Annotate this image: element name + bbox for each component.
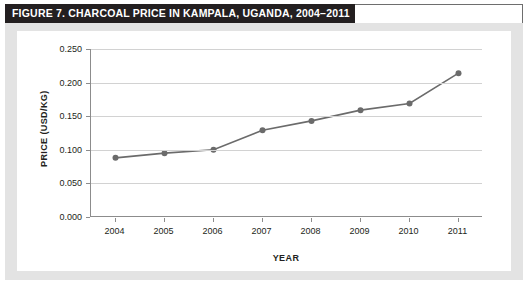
y-tick-mark [86, 83, 90, 84]
x-tick-mark [409, 218, 410, 222]
figure-title: FIGURE 7. CHARCOAL PRICE IN KAMPALA, UGA… [5, 4, 355, 23]
gridline [91, 183, 482, 184]
y-tick-label: 0.200 [59, 78, 82, 88]
data-point-marker [309, 118, 315, 124]
plot-area [90, 49, 482, 217]
x-tick-label: 2009 [349, 226, 369, 236]
x-tick-mark [458, 218, 459, 222]
y-axis-title: PRICE (USD/KG) [39, 90, 49, 167]
x-tick-label: 2004 [104, 226, 124, 236]
x-tick-mark [164, 218, 165, 222]
x-tick-label: 2005 [153, 226, 173, 236]
figure-container: FIGURE 7. CHARCOAL PRICE IN KAMPALA, UGA… [0, 0, 528, 285]
y-tick-label: 0.050 [59, 178, 82, 188]
y-tick-mark [86, 217, 90, 218]
data-point-marker [407, 100, 413, 106]
y-tick-label: 0.100 [59, 145, 82, 155]
gridline [91, 150, 482, 151]
gridline [91, 83, 482, 84]
x-tick-mark [213, 218, 214, 222]
x-tick-mark [115, 218, 116, 222]
x-tick-label: 2007 [251, 226, 271, 236]
gridline [91, 116, 482, 117]
data-point-marker [162, 150, 168, 156]
line-series-charcoal-price [91, 49, 483, 217]
gridline [91, 49, 482, 50]
x-tick-label: 2011 [448, 226, 467, 236]
x-tick-label: 2010 [398, 226, 418, 236]
y-tick-label: 0.150 [59, 111, 82, 121]
x-tick-label: 2008 [300, 226, 320, 236]
x-tick-mark [311, 218, 312, 222]
x-axis-title: YEAR [273, 253, 300, 263]
chart-panel: 0.0000.0500.1000.1500.2000.250 200420052… [5, 23, 523, 280]
data-point-marker [260, 127, 266, 133]
y-tick-label: 0.250 [59, 44, 82, 54]
x-tick-label: 2006 [202, 226, 222, 236]
chart-canvas: 0.0000.0500.1000.1500.2000.250 200420052… [17, 31, 511, 271]
y-tick-mark [86, 183, 90, 184]
data-point-marker [456, 70, 462, 76]
y-tick-mark [86, 49, 90, 50]
x-tick-mark [262, 218, 263, 222]
x-tick-mark [360, 218, 361, 222]
data-point-marker [358, 107, 364, 113]
y-tick-label: 0.000 [59, 212, 82, 222]
y-tick-mark [86, 150, 90, 151]
y-tick-mark [86, 116, 90, 117]
data-point-marker [113, 155, 119, 161]
